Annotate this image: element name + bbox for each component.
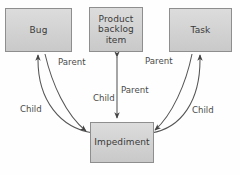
node-product-backlog-item[interactable]: Product backlog item (89, 7, 143, 52)
edge-label-child-bug: Child (20, 104, 42, 114)
node-impediment[interactable]: Impediment (90, 122, 154, 163)
connector-impediment-to-task-parent (151, 55, 200, 133)
edge-label-child-pbi: Child (93, 93, 115, 103)
edge-label-parent-pbi: Parent (121, 85, 149, 95)
edge-label-child-task: Child (192, 105, 214, 115)
diagram-canvas: Bug Product backlog item Task Impediment… (0, 0, 240, 175)
edge-label-parent-task: Parent (145, 56, 173, 66)
node-task[interactable]: Task (169, 8, 232, 52)
edge-label-parent-bug: Parent (58, 57, 86, 67)
node-bug[interactable]: Bug (5, 8, 72, 52)
